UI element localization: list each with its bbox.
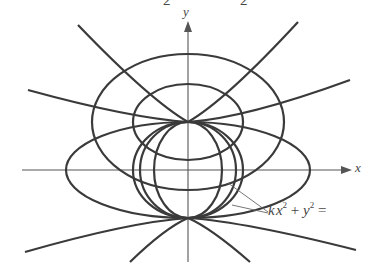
hyperbola-upper-flat: [28, 80, 350, 122]
eq-x: x: [276, 202, 283, 218]
eq-y: y: [303, 202, 310, 218]
eq-equals: =: [318, 202, 326, 218]
x-axis-label: x: [355, 160, 361, 176]
x-axis-arrow-icon: [341, 166, 352, 174]
equation-label: k x2 + y2 =: [268, 202, 326, 219]
y-axis-arrow-icon: [184, 21, 192, 32]
hyperbola-lower-steep: [130, 218, 250, 262]
y-axis-label: y: [183, 4, 189, 20]
eq-plus: +: [291, 202, 299, 218]
eq-exp2: 2: [310, 200, 315, 210]
hyperbola-lower-flat: [25, 218, 356, 252]
diagram: 2 2 y x k x2 + y2 =: [0, 0, 374, 265]
eq-exp1: 2: [283, 200, 288, 210]
eq-k: k: [268, 202, 275, 218]
conic-family-plot: [0, 0, 374, 265]
